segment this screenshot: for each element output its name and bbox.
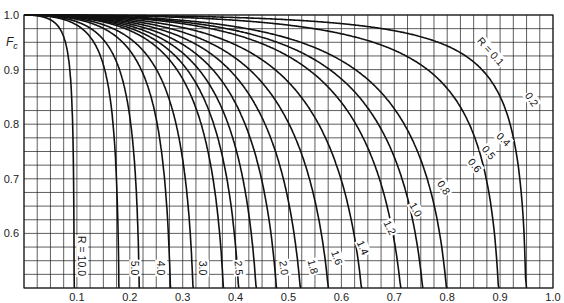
chart: R = 0.10.20.40.50.60.81.01.21.41.61.82.0… — [0, 0, 564, 303]
x-tick-label: 0.7 — [387, 291, 402, 303]
curve-label: 2.5 — [233, 260, 246, 276]
curve-label: 0.2 — [523, 90, 541, 109]
x-tick-label: 0.5 — [281, 291, 296, 303]
x-tick-label: 0.3 — [175, 291, 190, 303]
curve-label: 1.2 — [381, 218, 398, 237]
curve-label: 0.8 — [435, 178, 453, 197]
curve-label: 5.0 — [129, 261, 141, 276]
x-tick-label: 0.1 — [69, 291, 84, 303]
y-tick-label: 0.6 — [4, 227, 19, 239]
curve-label: R = 10.0 — [76, 236, 88, 276]
y-tick-label: 0.9 — [4, 64, 19, 76]
y-tick-label: 0.7 — [4, 173, 19, 185]
x-axis-ticks: 0.10.20.30.40.50.60.70.80.91.0 — [69, 291, 560, 303]
x-tick-label: 0.4 — [228, 291, 243, 303]
x-tick-label: 0.2 — [122, 291, 137, 303]
x-tick-label: 1.0 — [545, 291, 560, 303]
curve-label: 4.0 — [155, 261, 167, 276]
curve-label: 3.0 — [197, 261, 209, 276]
curve-label: 1.0 — [407, 200, 425, 219]
y-axis-label: Fc — [6, 35, 18, 51]
x-tick-label: 0.9 — [492, 291, 507, 303]
curve-label: 0.5 — [480, 143, 499, 162]
curve-label: R = 0.1 — [475, 34, 507, 68]
curve-label: 0.4 — [494, 130, 513, 149]
curve-label: 2.0 — [277, 260, 291, 276]
x-tick-label: 0.8 — [440, 291, 455, 303]
x-tick-label: 0.6 — [334, 291, 349, 303]
y-tick-label: 1.0 — [4, 9, 19, 21]
y-tick-label: 0.8 — [4, 118, 19, 130]
